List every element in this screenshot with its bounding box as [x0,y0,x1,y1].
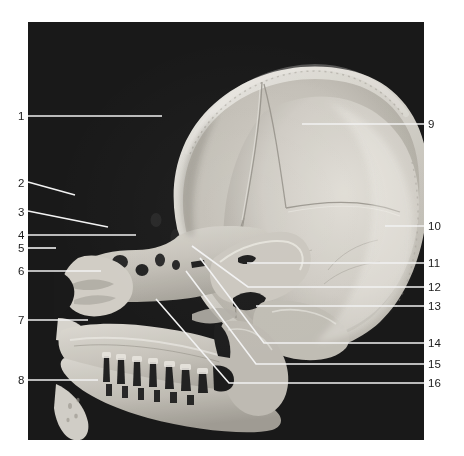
skull-sagittal-section-illustration [28,22,424,440]
label-number-11: 11 [428,257,440,269]
label-number-4: 4 [18,229,25,241]
label-number-2: 2 [18,177,25,189]
label-number-13: 13 [428,300,441,312]
film-grain [28,22,424,440]
label-number-8: 8 [18,374,25,386]
label-number-6: 6 [18,265,25,277]
label-number-1: 1 [18,110,25,122]
label-number-10: 10 [428,220,441,232]
label-number-14: 14 [428,337,441,349]
label-number-3: 3 [18,206,25,218]
skull-photograph [28,22,424,440]
label-number-12: 12 [428,281,441,293]
label-number-7: 7 [18,314,25,326]
label-number-16: 16 [428,377,441,389]
label-number-5: 5 [18,242,25,254]
figure-page: 12345678 910111213141516 [0,0,464,456]
label-number-9: 9 [428,118,435,130]
label-number-15: 15 [428,358,441,370]
